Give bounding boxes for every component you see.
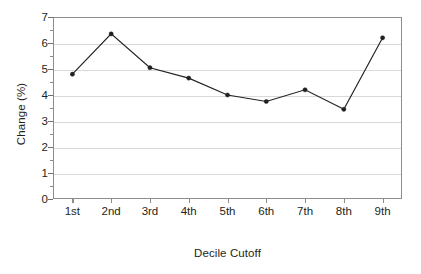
y-tick-mark — [48, 17, 53, 18]
y-tick-minor — [50, 134, 53, 135]
y-tick-minor — [50, 186, 53, 187]
x-tick-mark — [72, 199, 73, 203]
data-point — [109, 32, 113, 36]
x-tick-mark — [228, 199, 229, 203]
y-tick-minor — [50, 82, 53, 83]
y-tick-minor — [50, 160, 53, 161]
x-axis-title: Decile Cutoff — [53, 247, 402, 259]
data-point — [342, 107, 346, 111]
data-point — [225, 93, 229, 97]
x-tick-mark — [111, 199, 112, 203]
x-tick-mark — [344, 199, 345, 203]
data-point — [381, 36, 385, 40]
line-chart: Change (%) 01234567 Decile Cutoff 1st2nd… — [0, 0, 421, 274]
data-point — [303, 88, 307, 92]
series-layer — [0, 0, 421, 274]
series-markers — [70, 32, 384, 112]
x-tick-mark — [189, 199, 190, 203]
y-tick-mark — [48, 121, 53, 122]
y-tick-mark — [48, 69, 53, 70]
data-point — [70, 72, 74, 76]
y-tick-mark — [48, 43, 53, 44]
x-tick-mark — [305, 199, 306, 203]
x-tick-mark — [150, 199, 151, 203]
data-point — [264, 99, 268, 103]
x-tick-mark — [266, 199, 267, 203]
y-tick-minor — [50, 30, 53, 31]
data-point — [187, 76, 191, 80]
x-tick-label: 9th — [360, 205, 406, 217]
x-tick-mark — [383, 199, 384, 203]
series-line-change — [72, 34, 382, 109]
y-tick-mark — [48, 95, 53, 96]
y-tick-minor — [50, 108, 53, 109]
y-tick-minor — [50, 56, 53, 57]
y-tick-mark — [48, 199, 53, 200]
data-point — [148, 66, 152, 70]
y-tick-mark — [48, 173, 53, 174]
y-tick-mark — [48, 147, 53, 148]
